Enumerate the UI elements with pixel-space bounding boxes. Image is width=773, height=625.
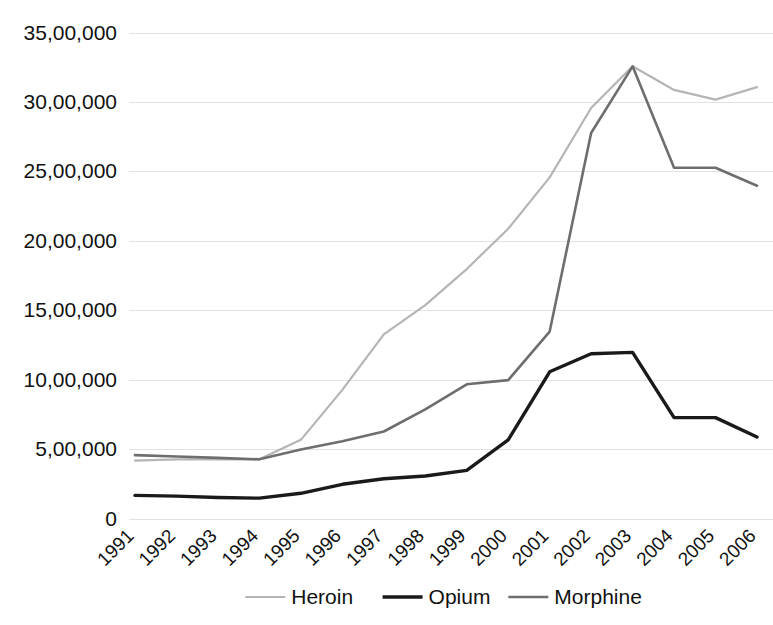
chart-canvas: 35,00,00030,00,00025,00,00020,00,00015,0… xyxy=(0,0,773,625)
legend-label-heroin: Heroin xyxy=(291,585,353,608)
y-tick-label: 15,00,000 xyxy=(24,298,117,321)
y-tick-label: 20,00,000 xyxy=(24,229,117,252)
y-tick-label: 30,00,000 xyxy=(24,90,117,113)
y-tick-label: 0 xyxy=(105,507,117,530)
legend-label-morphine: Morphine xyxy=(554,585,642,608)
chart-legend: HeroinOpiumMorphine xyxy=(245,585,642,608)
legend-label-opium: Opium xyxy=(429,585,491,608)
y-tick-label: 35,00,000 xyxy=(24,21,117,44)
y-tick-label: 5,00,000 xyxy=(35,437,117,460)
y-tick-label: 25,00,000 xyxy=(24,159,117,182)
line-chart: 35,00,00030,00,00025,00,00020,00,00015,0… xyxy=(0,0,773,625)
y-tick-label: 10,00,000 xyxy=(24,368,117,391)
